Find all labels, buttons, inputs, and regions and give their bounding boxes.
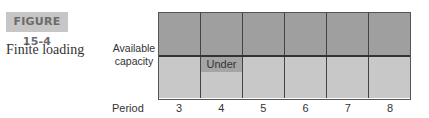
y-axis-label-line1: Available [111,42,157,55]
y-axis-label: Available capacity [111,42,157,68]
grid-row-bottom: Under [159,57,410,98]
period-tick: 4 [200,102,242,114]
grid-cell-period-4: Under [201,57,243,98]
figure-title: Finite loading [6,42,84,58]
grid-cell [201,13,243,55]
grid-cell [159,57,201,98]
x-axis-label: Period [112,102,144,114]
grid-cell [159,13,201,55]
grid-cell [243,57,285,98]
grid-cell [285,13,327,55]
under-annotation: Under [201,57,242,72]
period-tick: 7 [327,102,369,114]
period-ticks: 3 4 5 6 7 8 [158,102,411,114]
grid-cell [369,57,410,98]
period-tick: 6 [285,102,327,114]
grid-cell [243,13,285,55]
capacity-grid: Under [158,12,411,100]
figure-number: FIGURE 15-4 [6,12,68,32]
grid-cell [327,13,369,55]
grid-cell [327,57,369,98]
period-tick: 3 [158,102,200,114]
period-tick: 8 [369,102,411,114]
y-axis-label-line2: capacity [111,55,157,68]
grid-cell [285,57,327,98]
grid-cell [369,13,410,55]
grid-row-top [159,13,410,57]
period-tick: 5 [242,102,284,114]
